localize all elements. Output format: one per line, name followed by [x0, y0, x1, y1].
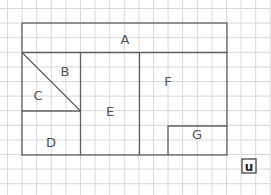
- region-labels: ABCDEFG: [33, 32, 202, 150]
- region-label-d: D: [46, 135, 56, 150]
- region-label-c: C: [33, 88, 42, 103]
- unit-box: u: [242, 159, 256, 174]
- region-label-b: B: [61, 64, 70, 79]
- region-label-e: E: [106, 104, 114, 119]
- unit-label: u: [245, 160, 254, 174]
- region-label-g: G: [192, 127, 202, 142]
- region-label-f: F: [164, 74, 171, 89]
- region-label-a: A: [121, 32, 130, 47]
- area-grid-diagram: ABCDEFG u: [0, 0, 271, 195]
